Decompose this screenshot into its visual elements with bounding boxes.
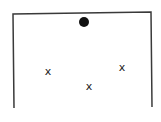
x-mark-middle: x <box>86 81 93 92</box>
diagram-canvas <box>0 0 161 122</box>
x-mark-left: x <box>45 66 52 77</box>
dot-icon <box>79 17 89 27</box>
x-mark-right: x <box>119 62 126 73</box>
